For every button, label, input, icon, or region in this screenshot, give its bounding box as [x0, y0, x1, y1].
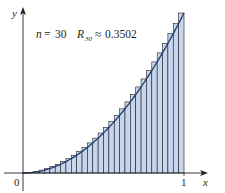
bar — [146, 71, 151, 173]
n-label: n — [36, 28, 42, 40]
bar — [163, 43, 168, 173]
bar — [141, 79, 146, 173]
origin-label: 0 — [14, 176, 20, 188]
r-label: R — [76, 28, 84, 40]
bar — [168, 34, 173, 173]
bar — [104, 128, 109, 174]
bar — [173, 24, 178, 174]
annotation: n = 30 R 30 ≈ 0.3502 — [36, 28, 137, 43]
y-axis-label: y — [11, 7, 17, 19]
bar — [120, 109, 125, 173]
r-subscript: 30 — [84, 35, 93, 43]
x-tick-label-1: 1 — [181, 176, 187, 188]
bar — [152, 62, 157, 173]
riemann-sum-chart: 0 1 x y n = 30 R 30 ≈ 0.3502 — [0, 0, 225, 193]
x-axis-label: x — [202, 176, 208, 188]
bar — [136, 87, 141, 173]
bar — [125, 102, 130, 173]
r-value: 0.3502 — [105, 28, 137, 40]
bar — [93, 138, 98, 173]
bar — [98, 133, 103, 173]
bar — [114, 115, 119, 173]
bar — [130, 95, 135, 173]
n-equals: = — [44, 28, 51, 40]
n-value: 30 — [55, 28, 67, 40]
bar — [109, 122, 114, 173]
bar — [179, 13, 184, 173]
bar — [157, 53, 162, 173]
approx-sign: ≈ — [95, 28, 101, 40]
